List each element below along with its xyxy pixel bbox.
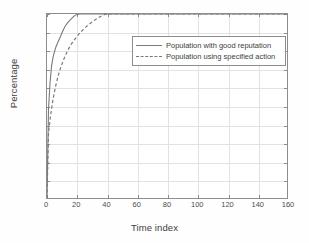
legend-line-sample-dashed-icon	[135, 52, 163, 62]
x-axis-title: Time index	[0, 222, 309, 233]
x-tick-label: 120	[221, 201, 234, 209]
x-tick-label: 80	[163, 201, 171, 209]
legend-item: Population with good reputation	[135, 40, 282, 51]
y-axis-title: Percentage	[8, 45, 19, 123]
legend-item: Population using specified action	[135, 51, 282, 62]
x-tick-label: 40	[102, 201, 110, 209]
x-tick-label: 0	[44, 201, 48, 209]
chart-legend: Population with good reputation Populati…	[132, 36, 286, 66]
legend-item-label: Population using specified action	[166, 52, 275, 62]
legend-item-label: Population with good reputation	[166, 41, 271, 51]
chart-figure: Percentage Time index 0.50.550.60.650.70…	[0, 0, 309, 243]
x-tick-label: 140	[251, 201, 264, 209]
x-tick-label: 60	[133, 201, 141, 209]
x-tick-label: 100	[191, 201, 204, 209]
legend-line-sample-solid-icon	[135, 41, 163, 51]
x-tick-label: 20	[72, 201, 80, 209]
x-tick-label: 160	[282, 201, 295, 209]
